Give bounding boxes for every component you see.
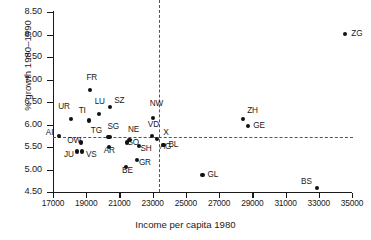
data-point-label: VS <box>86 151 97 159</box>
y-tick-label: 8.50 <box>0 7 42 16</box>
data-point-label: AI <box>46 129 53 137</box>
x-tick-label: 35000 <box>332 199 371 208</box>
data-point[interactable] <box>80 149 84 153</box>
data-point-label: SG <box>107 123 119 131</box>
data-point-label: BL <box>168 141 178 149</box>
data-point[interactable] <box>88 88 92 92</box>
y-tick-label: 4.50 <box>0 187 42 196</box>
data-point-label: OW <box>67 137 81 145</box>
data-point[interactable] <box>315 186 319 190</box>
data-point-label: UR <box>58 103 70 111</box>
y-tick-label: 5.00 <box>0 165 42 174</box>
data-point[interactable] <box>69 117 73 121</box>
plot-area: XAIURJUOWVSTIFRLUTGARSGSZBENESOGRSHVDNWA… <box>53 12 352 192</box>
data-point-label: ZH <box>247 107 258 115</box>
data-point[interactable] <box>108 105 112 109</box>
reference-intersection-marker: X <box>163 128 169 136</box>
data-point[interactable] <box>150 134 154 138</box>
data-point-label: BS <box>301 178 312 186</box>
y-tick-label: 5.50 <box>0 142 42 151</box>
data-point-label: SZ <box>114 97 124 105</box>
data-point-label: TG <box>91 127 102 135</box>
data-point-label: GL <box>208 171 219 179</box>
data-point-label: ZG <box>351 30 362 38</box>
data-point-label: GR <box>139 159 151 167</box>
vertical-reference-line <box>159 0 160 192</box>
x-axis-title: Income per capita 1980 <box>0 219 371 230</box>
data-point-label: VD <box>148 121 159 129</box>
data-point-label: BE <box>122 167 133 175</box>
horizontal-reference-line <box>53 137 353 138</box>
data-point[interactable] <box>246 124 250 128</box>
y-tick-label: 7.50 <box>0 52 42 61</box>
scatter-chart-figure: % growth 1980–1990 Income per capita 198… <box>0 0 371 240</box>
data-point[interactable] <box>161 143 165 147</box>
data-point[interactable] <box>75 149 79 153</box>
data-point-label: NW <box>150 100 163 108</box>
data-point[interactable] <box>107 135 111 139</box>
data-point[interactable] <box>97 112 101 116</box>
y-tick-label: 8.00 <box>0 30 42 39</box>
y-tick-label: 6.00 <box>0 120 42 129</box>
data-point[interactable] <box>155 137 159 141</box>
data-point-label: AR <box>104 147 115 155</box>
data-point-label: JU <box>64 151 74 159</box>
data-point[interactable] <box>200 173 204 177</box>
data-point[interactable] <box>241 117 245 121</box>
data-point[interactable] <box>343 32 347 36</box>
data-point[interactable] <box>151 116 155 120</box>
data-point-label: FR <box>86 74 97 82</box>
x-axis-line <box>53 192 352 193</box>
data-point-label: SH <box>140 145 151 153</box>
data-point-label: GE <box>253 122 265 130</box>
data-point-label: NE <box>128 126 139 134</box>
data-point[interactable] <box>87 118 91 122</box>
data-point-label: TI <box>79 107 86 115</box>
y-tick-label: 7.00 <box>0 75 42 84</box>
data-point-label: LU <box>95 98 105 106</box>
y-tick-label: 6.50 <box>0 97 42 106</box>
